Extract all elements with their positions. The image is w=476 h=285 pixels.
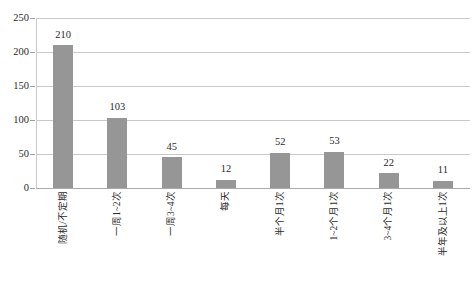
bar	[107, 118, 127, 188]
bar-value-label: 53	[307, 136, 361, 147]
y-axis-tick-label: 200	[13, 47, 29, 58]
bars-layer: 210103451252532211	[36, 18, 470, 188]
bar-value-label: 45	[145, 142, 199, 153]
y-axis-tick-mark	[30, 120, 35, 121]
y-axis-tick-mark	[30, 154, 35, 155]
x-axis-category-label-text: 1~2个月1次	[330, 191, 340, 240]
bar-value-label: 12	[199, 164, 253, 175]
bar	[324, 152, 344, 188]
bar	[162, 157, 182, 188]
x-axis-category-label-text: 每天	[221, 191, 231, 211]
bar-group: 22	[362, 18, 416, 188]
x-axis-category-label-text: 3~4个月1次	[384, 191, 394, 240]
y-axis-tick-label: 250	[13, 13, 29, 24]
bar	[270, 153, 290, 188]
x-axis-category-label: 随机/不定期	[36, 190, 90, 280]
y-axis-tick-label: 50	[19, 149, 30, 160]
bar-value-label: 210	[36, 30, 90, 41]
bar	[379, 173, 399, 188]
bar-group: 210	[36, 18, 90, 188]
bar-group: 53	[307, 18, 361, 188]
x-axis-category-label: 半年及以上1次	[416, 190, 470, 280]
x-axis-category-label: 3~4个月1次	[362, 190, 416, 280]
bar-group: 52	[253, 18, 307, 188]
plot-area: 050100150200250 210103451252532211	[36, 18, 470, 188]
bar	[53, 45, 73, 188]
bar-group: 103	[90, 18, 144, 188]
y-axis-tick-mark	[30, 52, 35, 53]
x-axis-category-label: 一周1~2次	[90, 190, 144, 280]
x-axis-category-label: 一周3~4次	[145, 190, 199, 280]
bar	[433, 181, 453, 188]
bar-group: 11	[416, 18, 470, 188]
y-axis-tick-mark	[30, 188, 35, 189]
x-axis-category-label-text: 随机/不定期	[58, 191, 68, 244]
bar-group: 12	[199, 18, 253, 188]
x-axis-category-labels: 随机/不定期一周1~2次一周3~4次每天半个月1次1~2个月1次3~4个月1次半…	[36, 190, 470, 282]
axis-baseline	[36, 188, 470, 189]
x-axis-category-label-text: 一周3~4次	[167, 191, 177, 236]
bar-value-label: 22	[362, 158, 416, 169]
x-axis-category-label: 每天	[199, 190, 253, 280]
x-axis-category-label-text: 一周1~2次	[113, 191, 123, 236]
y-axis-tick-mark	[30, 18, 35, 19]
bar-chart: 050100150200250 210103451252532211 随机/不定…	[0, 0, 476, 285]
x-axis-category-label: 1~2个月1次	[307, 190, 361, 280]
bar-value-label: 103	[90, 102, 144, 113]
bar	[216, 180, 236, 188]
y-axis-tick-mark	[30, 86, 35, 87]
y-axis-tick-label: 150	[13, 81, 29, 92]
y-axis-tick-label: 0	[24, 183, 29, 194]
y-axis-tick-label: 100	[13, 115, 29, 126]
x-axis-category-label-text: 半年及以上1次	[438, 191, 448, 256]
x-axis-category-label: 半个月1次	[253, 190, 307, 280]
x-axis-category-label-text: 半个月1次	[275, 191, 285, 236]
bar-group: 45	[145, 18, 199, 188]
bar-value-label: 52	[253, 137, 307, 148]
bar-value-label: 11	[416, 165, 470, 176]
